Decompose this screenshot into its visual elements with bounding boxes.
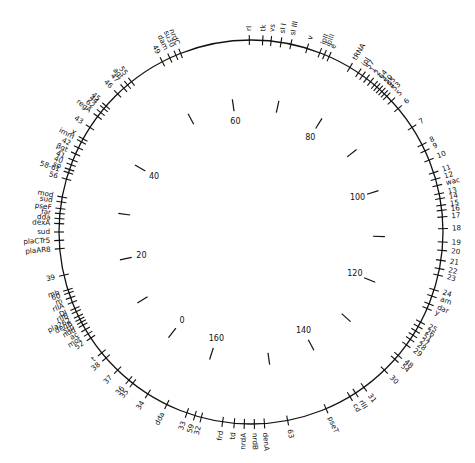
gene-label: 30 bbox=[388, 373, 401, 386]
kb-label: 20 bbox=[136, 251, 146, 260]
gene-tick bbox=[360, 72, 366, 80]
gene-label: 43 bbox=[73, 113, 86, 126]
gene-tick bbox=[356, 69, 362, 77]
gene-tick bbox=[416, 320, 425, 325]
gene-tick bbox=[87, 335, 95, 341]
kb-label: 140 bbox=[296, 326, 311, 335]
gene-label: plaCTr5 bbox=[23, 236, 50, 246]
gene-tick bbox=[234, 418, 235, 428]
gene-label: 7 bbox=[417, 116, 426, 126]
gene-tick bbox=[414, 324, 423, 329]
gene-tick bbox=[130, 379, 136, 387]
gene-label: 9 bbox=[431, 140, 439, 150]
kb-tick bbox=[232, 99, 234, 111]
gene-tick bbox=[145, 390, 150, 398]
kb-tick bbox=[364, 278, 375, 282]
gene-tick bbox=[264, 419, 265, 429]
kb-tick bbox=[169, 328, 176, 337]
kb-label: 120 bbox=[347, 269, 362, 278]
gene-tick bbox=[438, 242, 448, 243]
gene-tick bbox=[361, 383, 367, 391]
gene-label: 18 bbox=[452, 223, 462, 232]
gene-tick bbox=[436, 260, 446, 261]
gene-label: 10 bbox=[435, 148, 447, 160]
gene-tick bbox=[280, 37, 282, 47]
gene-tick bbox=[437, 210, 447, 211]
gene-label: denA bbox=[261, 432, 271, 451]
gene-label: 34 bbox=[134, 398, 147, 411]
gene-tick bbox=[406, 337, 414, 343]
gene-tick bbox=[402, 342, 410, 348]
gene-tick bbox=[84, 331, 92, 336]
kb-label: 0 bbox=[179, 316, 184, 325]
gene-tick bbox=[437, 250, 447, 251]
gene-label: frd bbox=[215, 430, 225, 441]
gene-label: 23 bbox=[446, 272, 457, 283]
kb-tick bbox=[308, 340, 314, 351]
gene-label: 63 bbox=[285, 428, 296, 439]
gene-tick bbox=[86, 125, 94, 130]
kb-tick bbox=[268, 353, 270, 365]
gene-tick bbox=[160, 57, 165, 66]
kb-tick bbox=[347, 150, 356, 157]
gene-label: 5 bbox=[395, 88, 404, 98]
gene-tick bbox=[347, 63, 352, 72]
kb-tick bbox=[118, 213, 130, 215]
gene-tick bbox=[54, 218, 64, 219]
kb-tick bbox=[120, 257, 132, 259]
gene-label: 6 bbox=[402, 96, 412, 106]
kb-label: 60 bbox=[230, 117, 240, 126]
gene-tick bbox=[418, 143, 427, 148]
gene-label: v bbox=[305, 34, 315, 41]
gene-label: sud bbox=[37, 227, 50, 236]
gene-tick bbox=[98, 350, 106, 356]
kb-tick bbox=[137, 297, 147, 303]
gene-label: rI bbox=[244, 26, 253, 31]
gene-label: td bbox=[228, 432, 238, 440]
gene-tick bbox=[56, 201, 66, 203]
kb-tick bbox=[135, 165, 145, 171]
kb-tick bbox=[316, 118, 322, 128]
gene-tick bbox=[347, 392, 352, 401]
gene-tick bbox=[437, 217, 447, 218]
gene-tick bbox=[74, 314, 83, 318]
circular-genetic-map: 608010012014016002040 rItkvssI IsI IIIvi… bbox=[0, 0, 475, 463]
kb-label: 160 bbox=[209, 334, 224, 343]
gene-tick bbox=[367, 78, 373, 86]
kb-label: 100 bbox=[350, 193, 365, 202]
kb-label: 40 bbox=[149, 172, 159, 181]
gene-tick bbox=[364, 75, 370, 83]
gene-tick bbox=[222, 417, 223, 427]
gene-tick bbox=[74, 146, 83, 150]
gene-tick bbox=[94, 113, 102, 119]
gene-label: nrdA bbox=[238, 433, 248, 450]
gene-tick bbox=[411, 328, 420, 333]
kb-tick bbox=[367, 191, 378, 195]
gene-label: vs bbox=[267, 23, 277, 32]
gene-label: 20 bbox=[451, 246, 461, 256]
gene-label: sI III bbox=[288, 20, 300, 36]
gene-label: sI I bbox=[277, 23, 287, 35]
gene-tick bbox=[128, 78, 134, 86]
gene-tick bbox=[165, 400, 169, 409]
gene-label: 37 bbox=[101, 373, 114, 386]
gene-tick bbox=[271, 36, 272, 46]
gene-tick bbox=[55, 213, 65, 214]
gene-tick bbox=[409, 332, 417, 337]
gene-label: pseT bbox=[326, 415, 341, 435]
gene-label: 17 bbox=[451, 210, 461, 220]
gene-label: t bbox=[89, 354, 97, 363]
gene-tick bbox=[55, 208, 65, 209]
kb-tick bbox=[210, 348, 214, 359]
gene-markers: rItkvssI IsI IIIvipIIipIIIetRNAipI571264… bbox=[23, 20, 461, 451]
gene-label: plaAR8 bbox=[25, 244, 52, 255]
kb-tick bbox=[276, 101, 278, 113]
gene-tick bbox=[353, 389, 358, 397]
gene-tick bbox=[81, 327, 90, 332]
kb-tick bbox=[342, 314, 351, 322]
kb-label: 80 bbox=[305, 133, 315, 142]
gene-tick bbox=[436, 205, 446, 206]
gene-label: dda bbox=[152, 410, 166, 426]
gene-label: nrdB bbox=[251, 433, 260, 450]
inner-kb-scale: 608010012014016002040 bbox=[118, 99, 385, 364]
